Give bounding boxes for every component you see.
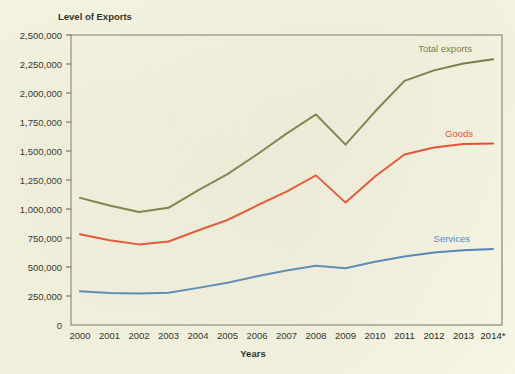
x-axis-tick-label: 2009	[335, 330, 356, 341]
series-label-goods: Goods	[445, 128, 473, 139]
y-axis-tick-label: 750,000	[28, 233, 62, 244]
chart-canvas: Level of Exports 0250,000500,000750,0001…	[0, 0, 515, 374]
y-axis-tick-label: 2,000,000	[20, 88, 62, 99]
y-axis-tick-label: 2,500,000	[20, 30, 62, 41]
plot-border	[71, 35, 502, 325]
x-axis-tick-label: 2008	[305, 330, 326, 341]
export-level-line-chart-figure: Level of Exports 0250,000500,000750,0001…	[0, 0, 515, 374]
x-axis-tick-label: 2003	[158, 330, 179, 341]
series-label-total-exports: Total exports	[418, 43, 472, 54]
x-axis-tick-label: 2000	[69, 330, 90, 341]
y-axis-tick-label: 1,250,000	[20, 175, 62, 186]
y-axis: 0250,000500,000750,0001,000,0001,250,000…	[20, 30, 71, 331]
series-label-services: Services	[434, 233, 471, 244]
y-axis-tick-label: 250,000	[28, 291, 62, 302]
x-axis-tick-label: 2005	[217, 330, 238, 341]
series-line-total-exports	[80, 59, 493, 212]
x-axis-tick-label: 2004	[187, 330, 208, 341]
data-series-group	[80, 59, 493, 293]
series-line-services	[80, 249, 493, 293]
x-axis-tick-label: 2002	[128, 330, 149, 341]
x-axis-tick-label: 2012	[423, 330, 444, 341]
x-axis-tick-label: 2013	[453, 330, 474, 341]
y-axis-title: Level of Exports	[58, 11, 132, 22]
y-axis-tick-label: 0	[57, 320, 62, 331]
y-axis-tick-label: 1,750,000	[20, 117, 62, 128]
y-axis-tick-label: 1,000,000	[20, 204, 62, 215]
y-axis-tick-label: 500,000	[28, 262, 62, 273]
y-axis-tick-label: 2,250,000	[20, 59, 62, 70]
x-axis-tick-label: 2001	[99, 330, 120, 341]
x-axis-tick-label: 2006	[246, 330, 267, 341]
x-axis-tick-label: 2007	[276, 330, 297, 341]
y-axis-tick-label: 1,500,000	[20, 146, 62, 157]
x-axis-title: Years	[240, 348, 265, 359]
series-line-goods	[80, 143, 493, 244]
x-axis-tick-label: 2010	[364, 330, 385, 341]
plot-frame	[71, 35, 502, 325]
x-axis-tick-label: 2011	[394, 330, 414, 341]
x-axis-tick-label: 2014*	[481, 330, 506, 341]
x-axis: 2000200120022003200420052006200720082009…	[69, 330, 505, 341]
